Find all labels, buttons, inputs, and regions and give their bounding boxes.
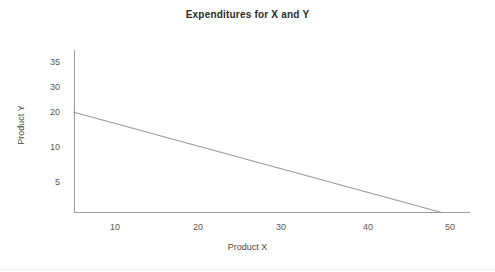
- x-tick-label-20: 20: [183, 222, 213, 232]
- x-tick-label-50: 50: [435, 222, 465, 232]
- y-tick-label-30: 30: [34, 82, 60, 92]
- x-tick-label-40: 40: [353, 222, 383, 232]
- data-series-line: [73, 112, 442, 213]
- y-axis-title: Product Y: [16, 95, 26, 155]
- x-tick-label-30: 30: [266, 222, 296, 232]
- y-tick-label-20: 20: [34, 107, 60, 117]
- plot-area: [0, 0, 495, 272]
- chart-container: Expenditures for X and Y 35 30 20 10 5 1…: [0, 0, 495, 272]
- x-axis-title: Product X: [0, 242, 495, 252]
- y-tick-label-35: 35: [34, 57, 60, 67]
- bottom-divider: [0, 269, 495, 270]
- x-tick-label-10: 10: [100, 222, 130, 232]
- y-tick-label-10: 10: [34, 142, 60, 152]
- y-tick-label-5: 5: [34, 177, 60, 187]
